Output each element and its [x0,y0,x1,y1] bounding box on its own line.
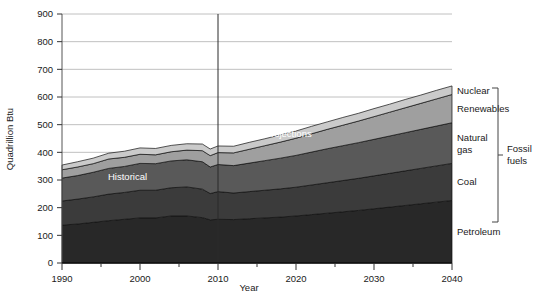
y-tick-label: 600 [37,91,53,102]
y-tick-label: 200 [37,202,53,213]
x-axis-title: Year [239,282,258,293]
energy-consumption-stacked-area-chart: 0100200300400500600700800900 19902000201… [0,0,559,300]
y-tick-label: 900 [37,8,53,19]
y-axis-ticks: 0100200300400500600700800900 [37,8,62,268]
legend: NuclearRenewablesNaturalgasCoalPetroleum [457,85,510,238]
legend-label-coal: Coal [457,176,477,187]
bracket-label-line2: fuels [507,155,527,166]
y-tick-label: 800 [37,36,53,47]
legend-label-natural-line2: gas [457,144,473,155]
y-tick-label: 0 [48,257,53,268]
y-axis-title: Quadrillion Btu [4,108,15,170]
x-tick-label: 2010 [207,273,228,284]
annotation-projections: Projections [265,128,312,139]
chart-figure: 0100200300400500600700800900 19902000201… [0,0,559,300]
y-tick-label: 300 [37,174,53,185]
annotation-historical: Historical [108,171,147,182]
x-tick-label: 2000 [129,273,150,284]
y-tick-label: 500 [37,119,53,130]
bracket-label-line1: Fossil [507,143,532,154]
x-axis-ticks: 199020002010202020302040 [51,263,462,284]
x-tick-label: 1990 [51,273,72,284]
x-tick-label: 2030 [363,273,384,284]
y-tick-label: 700 [37,64,53,75]
legend-label-renewables: Renewables [457,103,510,114]
legend-label-petroleum: Petroleum [457,226,500,237]
x-tick-label: 2040 [441,273,462,284]
y-tick-label: 400 [37,147,53,158]
legend-label-natural: Natural [457,132,488,143]
x-tick-label: 2020 [285,273,306,284]
legend-label-nuclear: Nuclear [457,85,490,96]
y-tick-label: 100 [37,230,53,241]
